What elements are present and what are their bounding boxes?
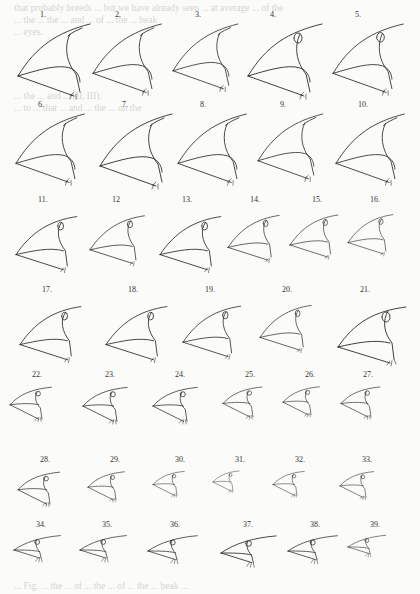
beak-drawing-icon — [85, 10, 165, 90]
beak-drawing-icon — [340, 195, 420, 275]
beak-drawing-icon — [145, 370, 225, 450]
beak-drawing-icon — [165, 10, 245, 90]
beak-drawing-icon — [8, 195, 88, 275]
beak-drawing-icon — [340, 520, 420, 594]
beak-drawing-icon — [325, 10, 405, 90]
beak-drawing-icon — [8, 100, 88, 180]
beak-drawing-icon — [2, 370, 82, 450]
beak-drawing-icon — [75, 370, 155, 450]
beak-drawing-icon — [250, 100, 330, 180]
beak-drawing-icon — [98, 285, 178, 365]
beak-drawing-icon — [252, 285, 332, 365]
beak-drawing-icon — [92, 100, 172, 180]
beak-drawing-icon — [330, 285, 410, 365]
beak-drawing-icon — [170, 100, 250, 180]
beak-drawing-icon — [12, 285, 92, 365]
beak-drawing-icon — [10, 10, 90, 90]
beak-drawing-icon — [140, 520, 220, 594]
beak-drawing-icon — [333, 370, 413, 450]
beak-drawing-icon — [82, 195, 162, 275]
beak-figure-plate: 1.2.3.4.5.6.7.8.9.10.11.1213.14.15.16.17… — [0, 0, 420, 594]
beak-drawing-icon — [328, 100, 408, 180]
beak-drawing-icon — [240, 10, 320, 90]
beak-drawing-icon — [175, 285, 255, 365]
